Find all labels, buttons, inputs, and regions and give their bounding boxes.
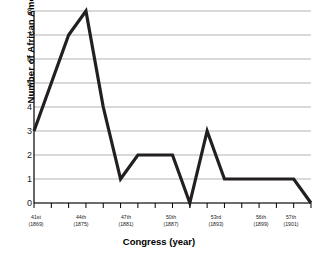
plot-area (0, 0, 318, 254)
gridlines (34, 11, 311, 203)
chart-figure: Number of African Americans Congress (ye… (0, 0, 318, 254)
x-axis-ticks (34, 203, 311, 208)
